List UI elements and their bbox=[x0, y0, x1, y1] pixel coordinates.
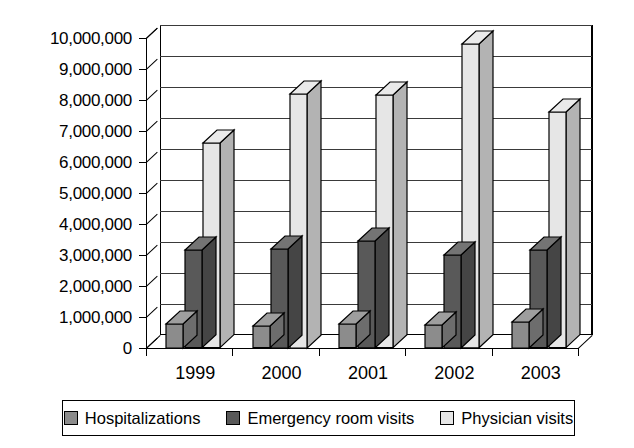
y-axis-tick-connector bbox=[146, 307, 158, 318]
gridline bbox=[160, 242, 592, 243]
y-axis-tick-connector bbox=[146, 90, 158, 101]
x-axis-tick bbox=[578, 348, 579, 356]
y-axis-tick bbox=[139, 100, 146, 101]
y-axis-tick bbox=[139, 162, 146, 163]
y-axis-tick bbox=[139, 286, 146, 287]
x-axis-tick-label: 2001 bbox=[325, 364, 411, 382]
y-axis-tick bbox=[139, 193, 146, 194]
y-axis-tick-connector bbox=[146, 214, 158, 225]
x-axis-tick-label: 1999 bbox=[152, 364, 238, 382]
legend-label: Emergency room visits bbox=[247, 410, 414, 427]
y-axis-tick bbox=[139, 255, 146, 256]
legend-swatch-icon bbox=[64, 411, 78, 425]
y-axis-tick-label: 2,000,000 bbox=[59, 278, 132, 295]
y-axis-tick bbox=[139, 224, 146, 225]
y-axis-tick-connector bbox=[146, 183, 158, 194]
x-axis-tick bbox=[319, 348, 320, 356]
plot-area bbox=[146, 25, 592, 361]
y-axis-tick-connector bbox=[146, 245, 158, 256]
y-axis-tick-label: 9,000,000 bbox=[59, 61, 132, 78]
x-axis-tick-label: 2003 bbox=[498, 364, 584, 382]
y-axis-tick-label: 0 bbox=[123, 340, 132, 357]
legend-swatch-icon bbox=[440, 411, 454, 425]
y-axis-tick-connector bbox=[146, 152, 158, 163]
y-axis-tick-label: 6,000,000 bbox=[59, 154, 132, 171]
x-axis-tick bbox=[405, 348, 406, 356]
gridline bbox=[160, 304, 592, 305]
legend-item: Emergency room visits bbox=[226, 410, 414, 427]
y-axis-tick-connector bbox=[146, 276, 158, 287]
gridline bbox=[160, 273, 592, 274]
legend-item: Physician visits bbox=[440, 410, 573, 427]
gridline bbox=[160, 25, 592, 26]
y-axis-tick-label: 10,000,000 bbox=[50, 30, 132, 47]
y-axis-tick-label: 8,000,000 bbox=[59, 92, 132, 109]
x-axis-tick bbox=[232, 348, 233, 356]
y-axis-tick bbox=[139, 317, 146, 318]
y-axis-tick-label: 5,000,000 bbox=[59, 185, 132, 202]
gridline bbox=[160, 87, 592, 88]
plot-back-right-edge bbox=[592, 25, 593, 335]
y-axis-tick bbox=[139, 348, 146, 349]
gridline bbox=[160, 56, 592, 57]
legend-label: Physician visits bbox=[461, 410, 573, 427]
y-axis-tick-label: 3,000,000 bbox=[59, 247, 132, 264]
gridline bbox=[160, 211, 592, 212]
x-axis-tick-label: 2002 bbox=[411, 364, 497, 382]
y-axis-tick bbox=[139, 69, 146, 70]
gridline bbox=[160, 118, 592, 119]
y-axis-tick-connector bbox=[146, 59, 158, 70]
y-axis-tick-label: 4,000,000 bbox=[59, 216, 132, 233]
y-axis-tick bbox=[139, 38, 146, 39]
legend-swatch-icon bbox=[226, 411, 240, 425]
chart-legend: HospitalizationsEmergency room visitsPhy… bbox=[62, 400, 575, 436]
floor-right-edge bbox=[578, 335, 593, 349]
y-axis-tick-label: 1,000,000 bbox=[59, 309, 132, 326]
legend-label: Hospitalizations bbox=[85, 410, 201, 427]
legend-item: Hospitalizations bbox=[64, 410, 201, 427]
x-axis-line bbox=[146, 348, 579, 349]
x-axis-tick bbox=[492, 348, 493, 356]
y-axis-tick-connector bbox=[146, 28, 158, 39]
x-axis-tick-label: 2000 bbox=[238, 364, 324, 382]
x-axis-tick bbox=[146, 348, 147, 356]
bar-chart: 01,000,0002,000,0003,000,0004,000,0005,0… bbox=[0, 0, 634, 448]
gridline bbox=[160, 180, 592, 181]
y-axis-tick-connector bbox=[146, 121, 158, 132]
y-axis-tick bbox=[139, 131, 146, 132]
y-axis-tick-label: 7,000,000 bbox=[59, 123, 132, 140]
gridline bbox=[160, 149, 592, 150]
